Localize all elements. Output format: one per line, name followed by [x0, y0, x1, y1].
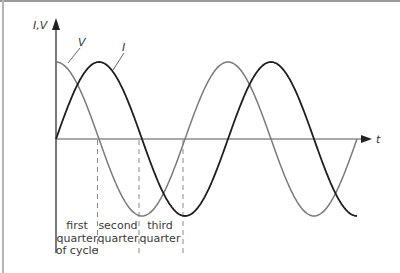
region-2-line-1: second [98, 219, 137, 232]
x-axis-label: t [376, 133, 381, 146]
region-3-line-1: third [147, 219, 173, 232]
y-axis-label: I,V [33, 19, 49, 32]
voltage-label: V [78, 36, 87, 49]
region-3-line-2: quarter [140, 232, 181, 245]
region-1-line-2: quarter [57, 232, 98, 245]
region-first-quarter: first quarter of cycle [56, 219, 99, 257]
region-1-line-3: of cycle [56, 244, 99, 257]
region-2-line-2: quarter [98, 232, 139, 245]
region-second-quarter: second quarter [98, 219, 139, 245]
x-axis-arrow-icon [361, 135, 372, 143]
y-axis-arrow-icon [52, 18, 60, 30]
region-1-line-1: first [66, 219, 88, 232]
voltage-leader [68, 48, 80, 63]
current-leader [113, 53, 124, 70]
ac-phase-diagram: I,V t V I first quarter of cycle second … [0, 0, 400, 273]
region-third-quarter: third quarter [140, 219, 181, 245]
current-label: I [122, 41, 125, 54]
